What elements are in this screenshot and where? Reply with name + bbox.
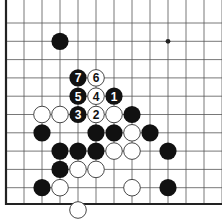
white-stone-shape (88, 161, 105, 178)
white-stone-shape (124, 125, 141, 142)
white-stone (70, 202, 87, 219)
white-stone (124, 179, 141, 196)
black-stone-shape (69, 143, 86, 160)
white-stone (106, 106, 123, 123)
move-number-label: 5 (75, 90, 82, 104)
move-number-label: 3 (75, 108, 82, 122)
black-stone (51, 143, 68, 160)
move-2-stone: 2 (88, 106, 105, 123)
white-stone (106, 143, 123, 160)
move-3-stone: 3 (69, 106, 86, 123)
black-stone-shape (159, 179, 176, 196)
black-stone-shape (87, 124, 104, 141)
black-stone-shape (159, 143, 176, 160)
white-stone (52, 179, 69, 196)
white-stone (34, 106, 51, 123)
white-stone (124, 143, 141, 160)
move-5-stone: 5 (69, 88, 86, 105)
black-stone (141, 124, 158, 141)
black-stone (87, 124, 104, 141)
black-stone (123, 106, 140, 123)
white-stone (70, 161, 87, 178)
black-stone (33, 124, 50, 141)
white-stone-shape (106, 106, 123, 123)
move-number-label: 4 (93, 90, 100, 104)
black-stone (51, 161, 68, 178)
black-stone (159, 179, 176, 196)
hoshi-dot (166, 39, 171, 44)
white-stone-shape (70, 202, 87, 219)
white-stone-shape (106, 143, 123, 160)
white-stone-shape (124, 143, 141, 160)
black-stone-shape (51, 143, 68, 160)
black-stone (159, 143, 176, 160)
move-number-label: 1 (111, 90, 118, 104)
go-board: 7654132 (0, 0, 222, 219)
move-6-stone: 6 (88, 70, 105, 87)
black-stone-shape (33, 124, 50, 141)
black-stone-shape (123, 106, 140, 123)
black-stone-shape (51, 161, 68, 178)
white-stone-shape (52, 179, 69, 196)
white-stone (124, 125, 141, 142)
black-stone-shape (87, 143, 104, 160)
black-stone (87, 143, 104, 160)
white-stone-shape (52, 106, 69, 123)
white-stone (52, 106, 69, 123)
black-stone (33, 179, 50, 196)
white-stone-shape (70, 161, 87, 178)
black-stone-shape (51, 33, 68, 50)
black-stone (105, 124, 122, 141)
hoshi-points (166, 39, 171, 44)
move-number-label: 6 (93, 71, 100, 85)
move-4-stone: 4 (88, 88, 105, 105)
move-number-label: 7 (75, 71, 82, 85)
black-stone-shape (141, 124, 158, 141)
move-1-stone: 1 (105, 88, 122, 105)
black-stone-shape (105, 124, 122, 141)
white-stone (88, 161, 105, 178)
black-stone (69, 143, 86, 160)
white-stone-shape (124, 179, 141, 196)
move-7-stone: 7 (69, 69, 86, 86)
black-stone (51, 33, 68, 50)
move-number-label: 2 (93, 108, 100, 122)
stones: 7654132 (33, 33, 176, 219)
black-stone-shape (33, 179, 50, 196)
white-stone-shape (34, 106, 51, 123)
